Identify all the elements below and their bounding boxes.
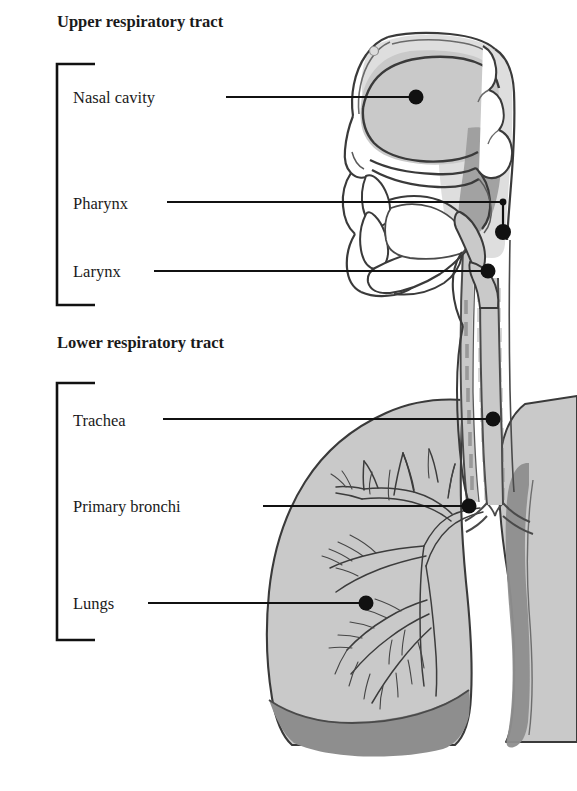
label-primary-bronchi: Primary bronchi [73,497,181,516]
marker-nasal-cavity [409,90,424,105]
anatomy-illustration [267,33,577,757]
label-lungs: Lungs [73,594,114,613]
upper-lip-inner [352,152,364,169]
upper-tract-heading: Upper respiratory tract [57,12,224,31]
label-trachea: Trachea [73,411,126,430]
marker-primary-bronchi [462,499,477,514]
lower-lip [347,234,361,292]
marker-lungs [359,596,374,611]
lower-tract-heading: Lower respiratory tract [57,333,225,352]
marker-trachea [486,412,501,427]
label-larynx: Larynx [73,262,121,281]
marker-pharynx [495,224,511,240]
figure-canvas: Upper respiratory tract Nasal cavity Pha… [0,0,577,791]
marker-larynx [481,264,496,279]
label-nasal-cavity: Nasal cavity [73,88,156,107]
label-pharynx: Pharynx [73,194,129,213]
respiratory-diagram: Upper respiratory tract Nasal cavity Pha… [0,0,577,791]
right-lung-shading [506,463,530,748]
frontal-sinus-dot [370,47,379,56]
left-lung [267,400,472,745]
lips [343,173,355,234]
